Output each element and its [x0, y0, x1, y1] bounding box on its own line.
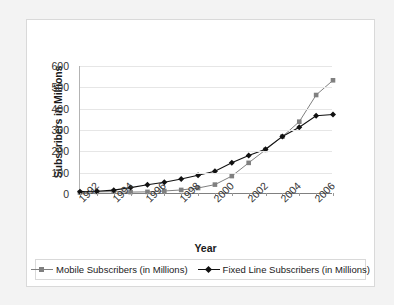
- y-tick-label: 500: [41, 81, 69, 93]
- series-mobile: [78, 78, 336, 195]
- legend-label: Fixed Line Subscribers (in Millions): [223, 264, 370, 275]
- gridline: [80, 130, 332, 131]
- legend-diamond-icon: [198, 265, 220, 274]
- x-axis-tick-labels: 19921994199619982000200220042006: [79, 196, 339, 236]
- data-point-marker-square: [230, 174, 235, 179]
- legend-entry[interactable]: Mobile Subscribers (in Millions): [31, 264, 187, 275]
- legend-entry[interactable]: Fixed Line Subscribers (in Millions): [198, 264, 370, 275]
- chart-panel: Subscribers in Millions 0100200300400500…: [26, 19, 375, 287]
- data-point-marker-diamond: [144, 182, 150, 188]
- legend-square-icon: [31, 265, 53, 274]
- chart-legend: Mobile Subscribers (in Millions)Fixed Li…: [35, 259, 366, 280]
- y-tick-label: 600: [41, 60, 69, 72]
- data-point-marker-square: [213, 182, 218, 187]
- y-tick-label: 200: [41, 145, 69, 157]
- x-axis-title: Year: [79, 242, 332, 254]
- data-point-marker-square: [246, 161, 251, 166]
- y-tick-label: 100: [41, 167, 69, 179]
- data-point-marker-square: [331, 78, 336, 83]
- gridline: [80, 151, 332, 152]
- data-point-marker-diamond: [178, 176, 184, 182]
- y-tick-label: 400: [41, 103, 69, 115]
- chart-screenshot: Subscribers in Millions 0100200300400500…: [0, 0, 394, 305]
- legend-label: Mobile Subscribers (in Millions): [56, 264, 187, 275]
- plot-area: [79, 66, 332, 194]
- data-point-marker-diamond: [330, 111, 336, 117]
- data-point-marker-square: [314, 93, 319, 98]
- y-tick-label: 0: [41, 188, 69, 200]
- data-point-marker-square: [297, 119, 302, 124]
- series-line: [80, 80, 333, 192]
- gridline: [80, 66, 332, 67]
- gridline: [80, 87, 332, 88]
- data-point-marker-diamond: [246, 152, 252, 158]
- y-tick-label: 300: [41, 124, 69, 136]
- data-point-marker-diamond: [229, 160, 235, 166]
- y-axis-tick-labels: 0100200300400500600: [41, 66, 69, 194]
- gridline: [80, 109, 332, 110]
- gridline: [80, 173, 332, 174]
